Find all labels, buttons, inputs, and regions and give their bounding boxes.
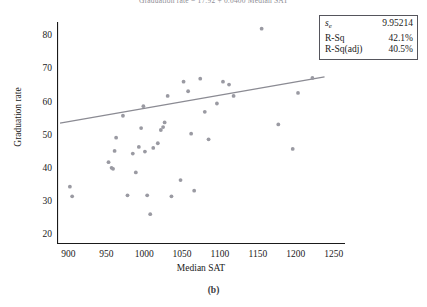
y-tick-label: 40 [26,163,52,173]
y-tick-label: 20 [26,229,52,239]
x-axis-tick-labels: 900950100010501100115012001250 [0,249,427,263]
statistics-label: se [325,18,332,33]
data-point [198,77,202,81]
data-point [114,136,118,140]
statistics-box: se9.95214R-Sq42.1%R-Sq(adj)40.5% [319,15,418,60]
x-tick-label: 900 [48,249,88,260]
statistics-value: 9.95214 [382,18,413,30]
data-point [139,126,143,130]
x-tick-label: 1150 [238,249,278,260]
statistics-label: R-Sq(adj) [325,44,362,56]
data-point [232,94,236,98]
data-point [276,122,280,126]
x-tick-label: 1100 [200,249,240,260]
data-point [159,128,163,132]
statistics-row: R-Sq42.1% [325,33,413,45]
figure-title: Graduation rate = 17.92 + 0.0400 Median … [0,0,427,5]
data-point [311,76,315,80]
data-point [260,27,264,31]
data-point [221,80,225,84]
data-point [113,149,117,153]
data-point [121,114,125,118]
regression-figure: Graduation rate = 17.92 + 0.0400 Median … [0,0,427,307]
data-point [107,160,111,164]
data-point [296,91,300,95]
data-point [156,141,160,145]
data-point [134,171,138,175]
data-point [227,83,231,87]
statistics-row: R-Sq(adj)40.5% [325,44,413,56]
data-point [142,104,146,108]
statistics-value: 42.1% [388,33,413,45]
statistics-row: se9.95214 [325,18,413,33]
data-point [182,80,186,84]
x-tick-label: 1050 [162,249,202,260]
data-point [186,89,190,93]
data-point [192,189,196,193]
data-point [170,194,174,198]
data-point [207,137,211,141]
data-point [131,152,135,156]
data-points [68,27,314,216]
data-point [291,147,295,151]
data-point [163,120,167,124]
data-point [143,150,147,154]
y-tick-label: 80 [26,30,52,40]
x-axis-title: Median SAT [57,263,345,273]
figure-caption: (b) [0,285,427,295]
y-tick-label: 50 [26,130,52,140]
statistics-value: 40.5% [388,44,413,56]
x-tick-label: 950 [86,249,126,260]
data-point [68,185,72,189]
x-tick-label: 1000 [124,249,164,260]
data-point [148,212,152,216]
y-axis-title: Graduation rate [13,72,23,162]
data-point [137,145,141,149]
y-tick-label: 30 [26,196,52,206]
y-tick-label: 60 [26,97,52,107]
y-tick-label: 70 [26,63,52,73]
data-point [189,132,193,136]
data-point [166,94,170,98]
data-point [145,193,149,197]
x-tick-label: 1250 [314,249,354,260]
axis-lines [57,22,345,244]
x-tick-label: 1200 [276,249,316,260]
data-point [111,167,115,171]
scatter-plot-svg [57,22,345,244]
data-point [203,110,207,114]
data-point [161,125,165,129]
regression-line-path [60,77,325,123]
regression-line [60,77,325,123]
data-point [70,194,74,198]
scatter-plot-area [57,22,345,244]
data-point [151,146,155,150]
data-point [179,178,183,182]
data-point [215,102,219,106]
axis-tick-marks [57,35,334,244]
statistics-label: R-Sq [325,33,345,45]
data-point [126,193,130,197]
